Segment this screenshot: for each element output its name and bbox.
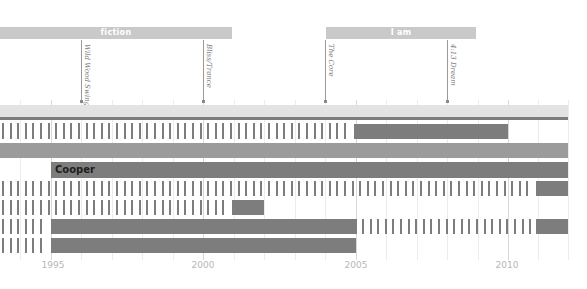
album-marker-line bbox=[325, 40, 326, 102]
row-6-intermittent bbox=[0, 219, 47, 234]
album-marker-line bbox=[203, 40, 204, 102]
timeline-chart: fiction I am Wild Wood Swing Bliss/Tranc… bbox=[0, 0, 587, 289]
gridline bbox=[538, 100, 539, 260]
row-6-solid bbox=[536, 219, 568, 234]
album-label-4-13-dream: 4:13 Dream bbox=[449, 44, 457, 86]
album-label-bliss-trance: Bliss/Trance bbox=[205, 44, 213, 88]
gridline bbox=[568, 100, 569, 260]
row-5-intermittent bbox=[0, 200, 228, 215]
row-1-solid bbox=[354, 124, 508, 139]
top-band-line bbox=[0, 117, 568, 120]
gridline-2010 bbox=[508, 100, 509, 260]
top-band bbox=[0, 105, 568, 117]
album-marker-dot bbox=[202, 100, 205, 103]
row-6-solid bbox=[51, 219, 357, 234]
row-1-intermittent bbox=[0, 123, 352, 139]
album-label-the-core: The Core bbox=[327, 44, 335, 77]
album-marker-line bbox=[81, 40, 82, 102]
row-2-solid bbox=[0, 143, 568, 158]
row-4-intermittent bbox=[0, 181, 532, 196]
x-tick-1995: 1995 bbox=[42, 260, 65, 270]
row-7-intermittent bbox=[0, 238, 47, 253]
x-tick-2010: 2010 bbox=[496, 260, 519, 270]
x-tick-2005: 2005 bbox=[345, 260, 368, 270]
album-marker-line bbox=[447, 40, 448, 102]
album-label-wild-wood-swing: Wild Wood Swing bbox=[83, 44, 91, 106]
cooper-label: Cooper bbox=[51, 162, 95, 178]
row-4-solid bbox=[536, 181, 568, 196]
album-marker-dot bbox=[446, 100, 449, 103]
x-tick-2000: 2000 bbox=[192, 260, 215, 270]
album-marker-dot bbox=[324, 100, 327, 103]
era-band-i-am: I am bbox=[326, 27, 476, 39]
row-5-solid bbox=[232, 200, 264, 215]
row-cooper-solid: Cooper bbox=[51, 162, 568, 178]
era-band-fiction: fiction bbox=[0, 27, 232, 39]
row-7-solid bbox=[51, 238, 356, 253]
row-6-intermittent bbox=[360, 219, 532, 234]
